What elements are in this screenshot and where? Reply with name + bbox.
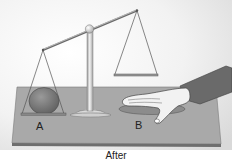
figure-caption: After <box>0 150 232 161</box>
scale-base-rim <box>70 113 111 117</box>
left-pan-plate <box>21 113 66 115</box>
label-a: A <box>36 121 43 132</box>
thumbnail <box>155 119 160 123</box>
label-b: B <box>135 120 142 131</box>
scale-pillar <box>87 30 93 111</box>
pivot-knob <box>85 25 93 33</box>
ball <box>29 88 59 115</box>
right-pan-plate <box>114 74 158 76</box>
balance-scale-illustration <box>0 0 232 163</box>
